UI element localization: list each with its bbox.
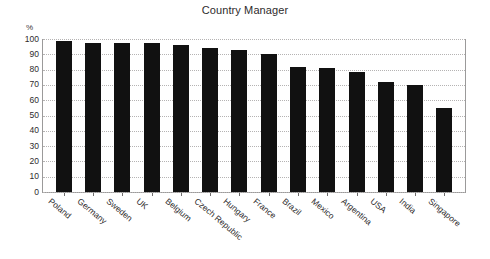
y-axis-tick-label: 60 — [19, 96, 39, 105]
y-axis-unit-label: % — [26, 23, 33, 32]
bar — [85, 43, 101, 192]
bar-chart: Country Manager % 1009080706050403020100… — [0, 0, 490, 259]
x-axis-label: Germany — [75, 196, 108, 226]
x-axis-label: USA — [368, 196, 388, 215]
x-axis-label: Belgium — [163, 196, 193, 223]
bar — [290, 67, 306, 192]
x-axis-label: Mexico — [310, 196, 337, 221]
y-axis-tick-label: 30 — [19, 142, 39, 151]
bar — [173, 45, 189, 192]
x-axis-label: Brazil — [280, 196, 303, 217]
x-axis-label: Sweden — [105, 196, 135, 223]
bar — [202, 48, 218, 192]
x-axis-label: India — [398, 196, 419, 216]
y-axis-tick-label: 20 — [19, 157, 39, 166]
chart-title: Country Manager — [0, 4, 490, 16]
bar — [319, 68, 335, 192]
x-axis-label: Poland — [46, 196, 73, 221]
bar — [56, 41, 72, 192]
y-axis-tick-label: 40 — [19, 126, 39, 135]
x-axis-label: France — [251, 196, 278, 221]
bar — [114, 43, 130, 192]
y-axis-tick-label: 80 — [19, 65, 39, 74]
bar — [261, 54, 277, 192]
bar — [349, 72, 365, 192]
bar — [378, 82, 394, 192]
bars-container — [42, 39, 466, 192]
bar — [231, 50, 247, 192]
bar — [144, 43, 160, 192]
x-axis-category-labels: PolandGermanySwedenUKBelgiumCzech Republ… — [42, 196, 490, 259]
x-axis-label: Argentina — [339, 196, 373, 227]
bar — [407, 85, 423, 192]
y-axis-tick-label: 100 — [19, 35, 39, 44]
x-axis-label: Singapore — [427, 196, 463, 229]
y-axis-tick-label: 50 — [19, 111, 39, 120]
y-axis-tick-label: 0 — [19, 188, 39, 197]
y-axis-tick-label: 90 — [19, 50, 39, 59]
x-axis-label: UK — [134, 196, 149, 211]
y-axis-tick-label: 10 — [19, 172, 39, 181]
bar — [436, 108, 452, 192]
y-axis-tick-label: 70 — [19, 80, 39, 89]
